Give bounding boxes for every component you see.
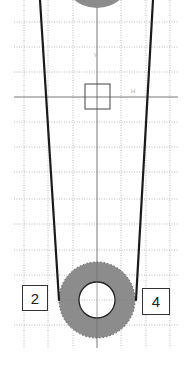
vertical-axis-label: V <box>94 52 98 58</box>
label-text: 2 <box>31 290 39 307</box>
label-box-2: 2 <box>22 285 48 311</box>
horizontal-axis-label: H <box>131 88 135 94</box>
label-text: 4 <box>152 293 160 310</box>
belt-left-segment <box>40 0 59 300</box>
pulley-diagram <box>0 0 185 382</box>
center-square <box>85 84 110 109</box>
belt-right-segment <box>136 0 153 300</box>
center-square-rect <box>85 84 110 109</box>
top-pulley <box>61 0 133 8</box>
label-box-4: 4 <box>142 288 170 315</box>
belt <box>40 0 153 300</box>
